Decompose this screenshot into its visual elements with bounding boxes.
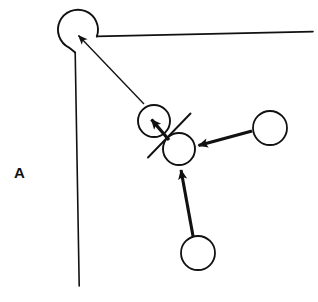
arrow-bottom-to-lower-pair <box>181 170 193 236</box>
boundary-structure <box>58 10 313 286</box>
boundary-left-line <box>75 53 79 287</box>
figure-panel-a: A <box>0 0 318 302</box>
figure-drawing-canvas <box>0 0 318 302</box>
circle-right <box>253 111 287 145</box>
corner-circle-notched <box>58 10 98 53</box>
arrow-group <box>79 36 253 237</box>
panel-label-a: A <box>14 165 25 180</box>
boundary-top-line <box>97 32 313 37</box>
circle-bottom <box>181 236 215 270</box>
arrow-right-to-lower-pair <box>199 131 253 146</box>
arrow-to-corner-circle <box>79 36 145 105</box>
